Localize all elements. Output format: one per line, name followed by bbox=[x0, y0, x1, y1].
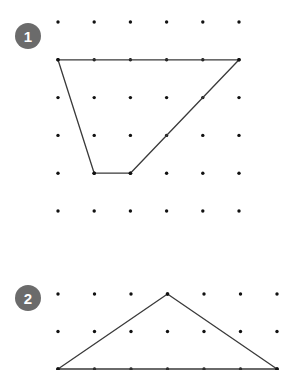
grid-dot bbox=[129, 330, 132, 333]
grid-dot bbox=[56, 134, 59, 137]
grid-dot bbox=[129, 96, 132, 99]
grid-dot bbox=[239, 292, 242, 295]
vertex-dot bbox=[92, 171, 96, 175]
grid-dot bbox=[93, 20, 96, 23]
grid-dot bbox=[202, 330, 205, 333]
grid-dot bbox=[201, 209, 204, 212]
grid-dot bbox=[56, 209, 59, 212]
grid-dot bbox=[239, 330, 242, 333]
grid-dot bbox=[56, 292, 59, 295]
problem-2: 2 bbox=[15, 285, 279, 370]
vertex-dot bbox=[166, 292, 170, 296]
vertex-dot bbox=[237, 58, 241, 62]
grid-dot bbox=[165, 209, 168, 212]
grid-dot bbox=[56, 330, 59, 333]
dot-grid-worksheet: 1 2 bbox=[0, 0, 292, 370]
grid-dot bbox=[56, 96, 59, 99]
grid-dot bbox=[237, 209, 240, 212]
grid-dot bbox=[56, 172, 59, 175]
grid-dot bbox=[129, 209, 132, 212]
grid-dot bbox=[237, 134, 240, 137]
quadrilateral-shape bbox=[58, 60, 239, 173]
grid-dot bbox=[93, 209, 96, 212]
grid-dot bbox=[275, 330, 278, 333]
dot-grid-2 bbox=[56, 292, 278, 370]
grid-dot bbox=[201, 20, 204, 23]
problem-number-2: 2 bbox=[24, 290, 32, 307]
grid-dot bbox=[237, 96, 240, 99]
vertex-dot bbox=[129, 171, 133, 175]
problem-1: 1 bbox=[15, 20, 241, 212]
grid-dot bbox=[237, 172, 240, 175]
vertex-dot bbox=[56, 58, 60, 62]
grid-dot bbox=[56, 20, 59, 23]
grid-dot bbox=[166, 330, 169, 333]
grid-dot bbox=[165, 172, 168, 175]
grid-dot bbox=[275, 292, 278, 295]
grid-dot bbox=[202, 292, 205, 295]
grid-dot bbox=[93, 134, 96, 137]
grid-dot bbox=[129, 20, 132, 23]
grid-dot bbox=[93, 96, 96, 99]
grid-dot bbox=[201, 172, 204, 175]
grid-dot bbox=[93, 330, 96, 333]
grid-dot bbox=[237, 20, 240, 23]
grid-dot bbox=[201, 134, 204, 137]
grid-dot bbox=[165, 96, 168, 99]
dot-grid-1 bbox=[56, 20, 240, 212]
problem-number-1: 1 bbox=[24, 28, 32, 45]
grid-dot bbox=[129, 292, 132, 295]
grid-dot bbox=[93, 292, 96, 295]
grid-dot bbox=[165, 20, 168, 23]
grid-dot bbox=[129, 134, 132, 137]
